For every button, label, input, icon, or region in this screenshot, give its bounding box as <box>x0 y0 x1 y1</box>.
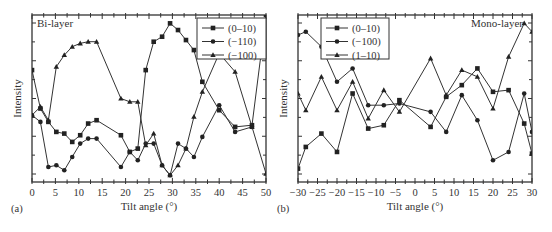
circle-marker <box>119 165 124 170</box>
square-marker <box>62 131 67 136</box>
square-marker <box>168 21 173 26</box>
panel-label: (b) <box>277 203 290 215</box>
panel-b-monolayer: −30−25−20−15−10−5051015202530Tilt angle … <box>277 13 537 215</box>
square-marker <box>78 133 83 138</box>
triangle-marker <box>334 107 339 112</box>
circle-marker <box>428 110 433 115</box>
square-marker <box>94 118 99 123</box>
circle-marker <box>46 165 51 170</box>
circle-marker <box>135 158 140 163</box>
circle-marker <box>78 141 83 146</box>
square-marker <box>366 126 371 131</box>
square-marker <box>211 26 216 31</box>
square-marker <box>460 83 465 88</box>
legend-entry: (−100) <box>228 50 257 62</box>
series-circle <box>30 103 255 178</box>
circle-marker <box>176 141 181 146</box>
square-marker <box>335 26 340 31</box>
legend: (0–10)(−100)(1–10) <box>321 18 389 62</box>
square-marker <box>350 91 355 96</box>
triangle-marker <box>490 106 495 111</box>
figure: 05101520253035404550Tilt angle (°)Intens… <box>0 0 552 232</box>
circle-marker <box>38 120 43 125</box>
square-marker <box>335 150 340 155</box>
triangle-marker <box>459 67 464 72</box>
square-marker <box>184 38 189 43</box>
x-tick-label: 30 <box>167 187 178 198</box>
triangle-marker <box>381 87 386 92</box>
square-marker <box>530 151 535 156</box>
square-marker <box>304 145 309 150</box>
triangle-marker <box>118 96 123 101</box>
legend-entry: (−100) <box>352 36 381 48</box>
square-marker <box>119 133 124 138</box>
circle-marker <box>233 130 238 135</box>
triangle-marker <box>366 116 371 121</box>
circle-marker <box>304 29 309 34</box>
layer-annotation: Mono-layer <box>471 17 523 29</box>
circle-marker <box>86 136 91 141</box>
triangle-marker <box>303 107 308 112</box>
circle-marker <box>530 130 535 135</box>
x-tick-label: −20 <box>329 187 345 198</box>
square-marker <box>428 125 433 130</box>
x-tick-label: −15 <box>348 187 364 198</box>
square-marker <box>151 39 156 44</box>
legend-entry: (−110) <box>228 36 257 48</box>
triangle-marker <box>295 91 300 96</box>
x-tick-label: 10 <box>74 187 85 198</box>
x-tick-label: 20 <box>120 187 131 198</box>
square-marker <box>176 28 181 33</box>
x-tick-label: 10 <box>449 187 460 198</box>
triangle-marker <box>191 114 196 119</box>
circle-marker <box>151 141 156 146</box>
triangle-marker <box>428 56 433 61</box>
x-axis-label: Tilt angle (°) <box>387 200 444 213</box>
circle-marker <box>335 39 340 44</box>
circle-marker <box>192 155 197 160</box>
x-tick-label: 20 <box>488 187 499 198</box>
circle-marker <box>475 118 480 123</box>
legend-entry: (1–10) <box>352 50 380 62</box>
circle-marker <box>350 66 355 71</box>
square-marker <box>296 166 301 171</box>
x-tick-label: 25 <box>144 187 155 198</box>
circle-marker <box>522 91 527 96</box>
square-marker <box>491 90 496 95</box>
legend-entry: (0–10) <box>228 23 256 35</box>
square-marker <box>522 121 527 126</box>
square-marker <box>192 48 197 53</box>
x-tick-label: 0 <box>412 187 417 198</box>
circle-marker <box>382 103 387 108</box>
circle-marker <box>128 150 133 155</box>
layer-annotation: Bi-layer <box>37 17 73 29</box>
square-marker <box>200 80 205 85</box>
panel-a-bilayer: 05101520253035404550Tilt angle (°)Intens… <box>11 13 271 215</box>
x-tick-label: 50 <box>261 187 272 198</box>
circle-marker <box>335 80 340 85</box>
x-axis-label: Tilt angle (°) <box>121 200 178 213</box>
x-tick-label: −30 <box>290 187 306 198</box>
circle-marker <box>460 93 465 98</box>
x-tick-label: 45 <box>237 187 248 198</box>
square-marker <box>160 34 165 39</box>
circle-marker <box>397 101 402 106</box>
panel-label: (a) <box>11 203 23 215</box>
x-tick-label: 15 <box>468 187 479 198</box>
circle-marker <box>62 168 67 173</box>
legend-entry: (0–10) <box>352 23 380 35</box>
x-tick-label: 15 <box>97 187 108 198</box>
series-line <box>32 42 266 176</box>
x-tick-label: 35 <box>191 187 202 198</box>
x-tick-label: −25 <box>309 187 325 198</box>
series-square <box>296 66 535 171</box>
series-line <box>32 105 252 175</box>
circle-marker <box>70 155 75 160</box>
square-marker <box>70 140 75 145</box>
triangle-marker <box>175 163 180 168</box>
circle-marker <box>217 103 222 108</box>
circle-marker <box>211 39 216 44</box>
circle-marker <box>506 150 511 155</box>
square-marker <box>86 121 91 126</box>
circle-marker <box>94 136 99 141</box>
